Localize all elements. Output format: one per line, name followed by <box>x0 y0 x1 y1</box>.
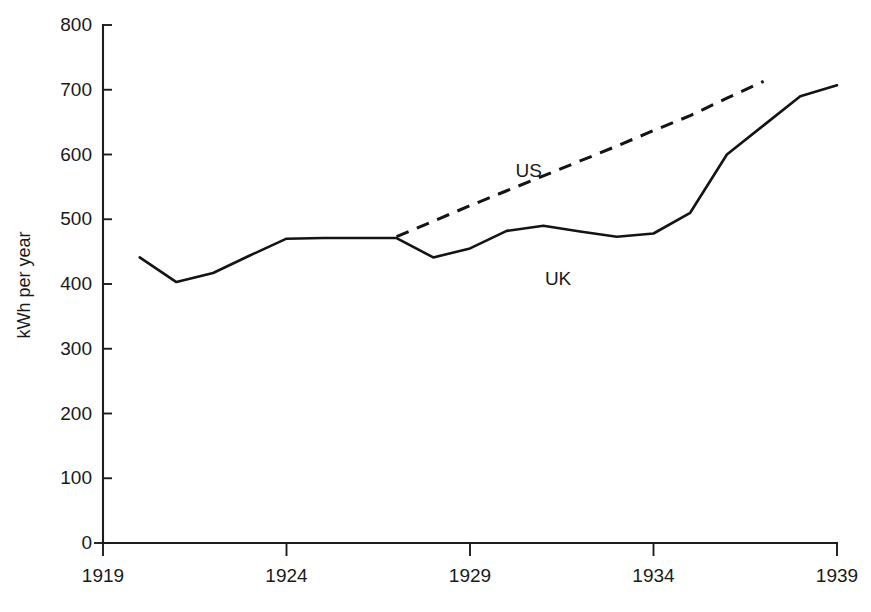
y-axis-title: kWh per year <box>14 231 34 338</box>
x-tick-label-1919: 1919 <box>82 565 124 586</box>
y-tick-label-400: 400 <box>60 273 92 294</box>
y-tick-label-500: 500 <box>60 208 92 229</box>
y-axis-tick-labels: 800 700 600 500 400 300 200 100 0 <box>60 14 92 553</box>
y-tick-label-100: 100 <box>60 467 92 488</box>
series-line-us <box>397 81 764 236</box>
y-tick-label-0: 0 <box>81 532 92 553</box>
x-tick-label-1924: 1924 <box>265 565 308 586</box>
y-tick-label-200: 200 <box>60 403 92 424</box>
chart-container: 800 700 600 500 400 300 200 100 0 1919 1… <box>0 0 871 612</box>
y-tick-label-700: 700 <box>60 79 92 100</box>
series-label-us: US <box>516 160 542 181</box>
series-line-uk <box>140 85 837 282</box>
y-tick-label-600: 600 <box>60 144 92 165</box>
y-tick-label-800: 800 <box>60 14 92 35</box>
x-tick-label-1934: 1934 <box>632 565 675 586</box>
x-tick-label-1939: 1939 <box>816 565 858 586</box>
y-tick-label-300: 300 <box>60 338 92 359</box>
series-label-uk: UK <box>545 268 572 289</box>
x-tick-label-1929: 1929 <box>449 565 491 586</box>
x-axis-ticks <box>103 543 837 556</box>
x-axis-tick-labels: 1919 1924 1929 1934 1939 <box>82 565 858 586</box>
line-chart: 800 700 600 500 400 300 200 100 0 1919 1… <box>0 0 871 612</box>
